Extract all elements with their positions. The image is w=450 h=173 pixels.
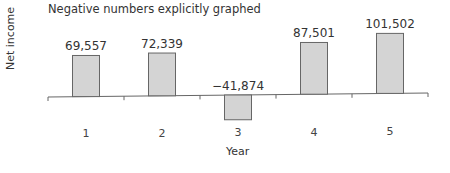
bar-year-1 <box>73 55 100 96</box>
value-label: −41,874 <box>212 79 264 93</box>
x-tick-label: 4 <box>311 126 318 139</box>
bar-year-2 <box>149 53 176 96</box>
bar-year-3 <box>225 95 252 120</box>
value-label: 69,557 <box>65 39 107 53</box>
bar-chart: 69,557172,3392−41,874387,5014101,5025 <box>0 0 450 173</box>
bar-year-5 <box>377 33 404 93</box>
x-tick-label: 1 <box>83 127 90 140</box>
x-tick-label: 2 <box>159 127 166 140</box>
x-tick-label: 5 <box>387 125 394 138</box>
value-label: 87,501 <box>293 26 335 40</box>
x-tick-label: 3 <box>235 126 242 139</box>
value-label: 101,502 <box>365 17 415 31</box>
bar-year-4 <box>301 42 328 94</box>
value-label: 72,339 <box>141 37 183 51</box>
